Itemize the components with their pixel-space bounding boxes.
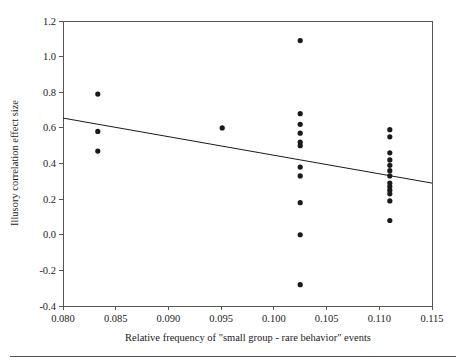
- y-tick-label: 0.8: [43, 87, 56, 98]
- x-axis-ticks: 0.0800.0850.0900.0950.1000.1050.1100.115: [51, 306, 443, 324]
- data-point: [298, 122, 303, 127]
- y-tick-label: -0.2: [39, 265, 56, 276]
- data-point: [387, 163, 392, 168]
- y-tick-label: 0.2: [43, 194, 56, 205]
- data-point: [220, 125, 225, 130]
- x-tick-label: 0.110: [368, 313, 391, 324]
- data-points: [95, 38, 392, 287]
- y-axis-ticks: -0.4-0.20.00.20.40.60.81.01.2: [39, 16, 63, 312]
- y-axis-title: Illusory correlation effect size: [9, 100, 20, 226]
- data-point: [387, 218, 392, 223]
- regression-line: [63, 118, 432, 183]
- data-point: [387, 127, 392, 132]
- data-point: [387, 150, 392, 155]
- y-tick-label: 1.2: [43, 16, 56, 27]
- axes-group: [63, 21, 432, 306]
- x-tick-label: 0.105: [315, 313, 339, 324]
- x-tick-label: 0.080: [51, 313, 75, 324]
- y-tick-label: 0.0: [43, 229, 56, 240]
- data-point: [95, 129, 100, 134]
- x-tick-label: 0.100: [262, 313, 286, 324]
- scatter-plot-figure: -0.4-0.20.00.20.40.60.81.01.2 0.0800.085…: [0, 0, 466, 362]
- y-tick-label: 0.4: [43, 158, 57, 169]
- data-point: [298, 38, 303, 43]
- data-point: [95, 148, 100, 153]
- data-point: [387, 198, 392, 203]
- x-tick-label: 0.115: [420, 313, 443, 324]
- x-tick-label: 0.085: [104, 313, 128, 324]
- data-point: [298, 173, 303, 178]
- x-tick-label: 0.095: [209, 313, 233, 324]
- data-point: [298, 282, 303, 287]
- data-point: [298, 164, 303, 169]
- data-point: [387, 168, 392, 173]
- data-point: [298, 131, 303, 136]
- x-axis-title: Relative frequency of "small group - rar…: [125, 332, 371, 343]
- y-tick-label: -0.4: [39, 301, 56, 312]
- y-tick-label: 1.0: [43, 51, 56, 62]
- y-tick-label: 0.6: [43, 122, 56, 133]
- x-tick-label: 0.090: [157, 313, 181, 324]
- data-point: [298, 111, 303, 116]
- data-point: [95, 91, 100, 96]
- data-point: [387, 173, 392, 178]
- data-point: [298, 143, 303, 148]
- data-point: [387, 191, 392, 196]
- data-point: [298, 232, 303, 237]
- plot-canvas: -0.4-0.20.00.20.40.60.81.01.2 0.0800.085…: [0, 0, 466, 362]
- data-point: [387, 157, 392, 162]
- plot-frame: [63, 21, 432, 306]
- trendline: [63, 118, 432, 183]
- data-point: [387, 134, 392, 139]
- data-point: [298, 200, 303, 205]
